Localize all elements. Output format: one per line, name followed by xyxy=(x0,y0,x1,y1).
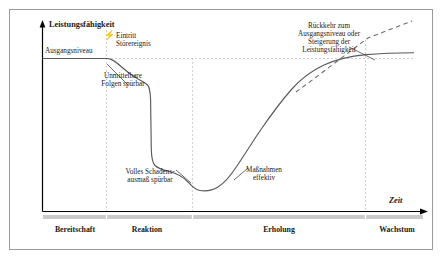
x-axis-arrow xyxy=(420,208,428,214)
phase-label-wachstum: Wachstum xyxy=(366,226,428,235)
phase-label-reaktion: Reaktion xyxy=(116,226,178,235)
annotation-immediate-consequences: Unmittelbare Folgen spürbar xyxy=(88,72,158,88)
x-axis-label: Zeit xyxy=(389,196,402,205)
annotation-return-to-baseline: Rückkehr zum Ausgangsniveau oder Steiger… xyxy=(276,22,382,54)
y-axis-label: Leistungsfähigkeit xyxy=(49,20,114,29)
phase-label-bereitschaft: Bereitschaft xyxy=(44,226,106,235)
figure-canvas: Leistungsfähigkeit Zeit Ausgangsniveau ⚡… xyxy=(0,0,444,261)
annotation-full-damage: Volles Schadens- ausmaß spürbar xyxy=(112,168,188,184)
baseline-label: Ausgangsniveau xyxy=(45,47,93,55)
annotation-measures-effective: Maßnahmen effektiv xyxy=(236,166,292,182)
annotation-event: Eintritt Störereignis xyxy=(116,32,151,48)
phase-label-erholung: Erholung xyxy=(248,226,310,235)
y-axis-arrow xyxy=(40,20,46,28)
lightning-bolt-icon: ⚡ xyxy=(104,30,115,40)
